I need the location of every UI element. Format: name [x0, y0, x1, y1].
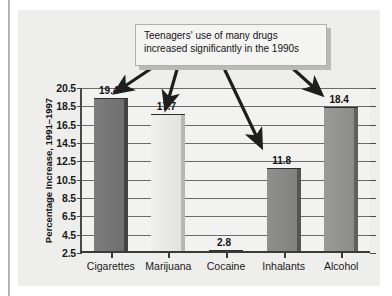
left-margin-rule	[8, 0, 10, 296]
annotation-callout: Teenagers' use of many drugs increased s…	[135, 24, 327, 66]
chart-screenshot: Percentage Increase, 1991–1997 20.518.51…	[0, 0, 392, 296]
value-label-alcohol: 18.4	[329, 94, 348, 105]
value-label-inhalants: 11.8	[272, 155, 291, 166]
value-label-cigarettes: 19.4	[99, 85, 118, 96]
figure-panel: Percentage Increase, 1991–1997 20.518.51…	[18, 10, 380, 286]
value-label-cocaine: 2.8	[217, 237, 231, 248]
value-label-marijuana: 17.7	[157, 101, 176, 112]
